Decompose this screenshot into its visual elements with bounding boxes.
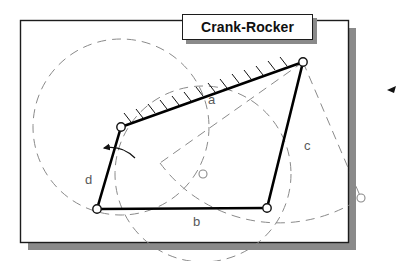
joint-right-ground xyxy=(299,58,307,66)
link-b-coupler xyxy=(97,208,267,209)
link-label-c: c xyxy=(304,138,311,153)
joint-crank-end xyxy=(93,205,101,213)
page-title: Crank-Rocker xyxy=(201,19,294,35)
joint-coupler-trace-center xyxy=(199,170,207,178)
joint-rocker-end xyxy=(263,204,271,212)
title-box: Crank-Rocker xyxy=(182,14,313,40)
right-edge-tick-icon xyxy=(387,86,396,93)
figure-stage: Crank-Rocker a b c d xyxy=(0,0,405,261)
link-label-a: a xyxy=(208,92,215,107)
link-label-d: d xyxy=(85,172,92,187)
joint-left-ground xyxy=(117,123,125,131)
joint-rocker-extreme xyxy=(357,194,365,202)
link-label-b: b xyxy=(193,214,200,229)
